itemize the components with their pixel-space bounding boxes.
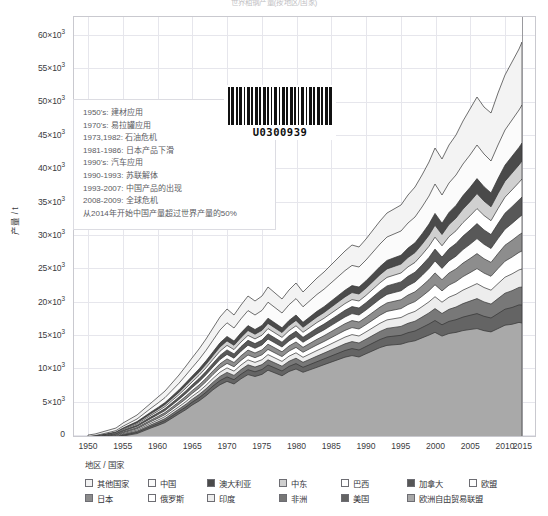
y-tick: 15×103 [38, 328, 65, 340]
legend-item-usa[interactable]: 美国 [341, 492, 407, 504]
legend-swatch-icon [279, 479, 287, 487]
legend-swatch-icon [407, 494, 415, 502]
barcode-value: U0300939 [253, 126, 308, 138]
legend-item-china[interactable]: 中国 [148, 477, 207, 489]
y-tick: 25×103 [38, 261, 65, 273]
legend-item-africa[interactable]: 非洲 [279, 492, 341, 504]
legend-item-india[interactable]: 印度 [207, 492, 279, 504]
legend-label: 俄罗斯 [160, 492, 184, 504]
y-tick: 0 [60, 429, 65, 439]
legend-label: 中东 [291, 477, 307, 489]
y-tick: 60×103 [38, 28, 65, 40]
legend-label: 印度 [219, 492, 235, 504]
legend-item-efta[interactable]: 欧洲自由贸易联盟 [407, 492, 483, 504]
legend-item-canada[interactable]: 加拿大 [407, 477, 469, 489]
legend-label: 澳大利亚 [219, 477, 251, 489]
legend-swatch-icon [207, 494, 215, 502]
y-tick: 35×103 [38, 195, 65, 207]
legend-label: 欧盟 [481, 477, 497, 489]
y-axis-ticks: 0 5×103 10×103 15×103 20×103 25×103 30×1… [0, 0, 69, 516]
x-tick: 1955 [113, 441, 132, 451]
chart-page: 世界粗钢产量(按地区/国家) 产量 / t 0 5×103 10×103 15×… [0, 0, 548, 516]
legend: 地区 / 国家 其他国家 中国 澳大利亚 中东 巴西 [73, 453, 536, 511]
legend-label: 非洲 [291, 492, 307, 504]
x-tick: 2005 [461, 441, 480, 451]
legend-swatch-icon [207, 479, 215, 487]
legend-item-brazil[interactable]: 巴西 [341, 477, 407, 489]
legend-item-middle-east[interactable]: 中东 [279, 477, 341, 489]
y-tick: 50×103 [38, 94, 65, 106]
legend-label: 巴西 [353, 477, 369, 489]
legend-item-other-countries[interactable]: 其他国家 [85, 477, 148, 489]
x-tick: 2010 [495, 441, 514, 451]
legend-swatch-icon [341, 479, 349, 487]
y-tick: 55×103 [38, 61, 65, 73]
legend-label: 中国 [160, 477, 176, 489]
legend-item-japan[interactable]: 日本 [85, 492, 148, 504]
y-tick: 30×103 [38, 228, 65, 240]
x-tick: 1990 [356, 441, 375, 451]
legend-row-2: 日本 俄罗斯 印度 非洲 美国 欧洲自由贸易联盟 [85, 490, 536, 505]
legend-title: 地区 / 国家 [85, 458, 536, 470]
legend-swatch-icon [407, 479, 415, 487]
y-tick: 20×103 [38, 295, 65, 307]
x-tick: 1985 [322, 441, 341, 451]
legend-label: 欧洲自由贸易联盟 [419, 492, 483, 504]
annotation-line: 1990's: 汽车应用 [83, 157, 266, 170]
legend-label: 美国 [353, 492, 369, 504]
barcode-watermark: U0300939 [224, 85, 336, 140]
barcode-bars-icon [228, 87, 332, 125]
legend-item-eu[interactable]: 欧盟 [469, 477, 497, 489]
legend-swatch-icon [148, 479, 156, 487]
legend-label: 日本 [97, 492, 113, 504]
x-tick: 1965 [183, 441, 202, 451]
legend-item-russia[interactable]: 俄罗斯 [148, 492, 207, 504]
page-title: 世界粗钢产量(按地区/国家) [0, 0, 548, 7]
year-2015-marker [522, 17, 523, 436]
x-tick: 1975 [252, 441, 271, 451]
x-tick: 1980 [287, 441, 306, 451]
x-tick: 1950 [78, 441, 97, 451]
legend-swatch-icon [85, 494, 93, 502]
y-tick: 40×103 [38, 161, 65, 173]
annotation-line: 2008-2009: 全球危机 [83, 195, 266, 208]
annotation-line: 从2014年开始中国产量超过世界产量的50% [83, 208, 266, 221]
legend-row-1: 其他国家 中国 澳大利亚 中东 巴西 加拿大 [85, 475, 536, 490]
x-tick: 1960 [148, 441, 167, 451]
legend-label: 其他国家 [97, 477, 129, 489]
legend-swatch-icon [279, 494, 287, 502]
x-tick: 2015 [513, 441, 532, 451]
x-tick: 1970 [217, 441, 236, 451]
legend-swatch-icon [85, 479, 93, 487]
annotation-line: 1981-1986: 日本产品下滑 [83, 145, 266, 158]
legend-swatch-icon [469, 479, 477, 487]
legend-label: 加拿大 [419, 477, 443, 489]
legend-swatch-icon [148, 494, 156, 502]
x-tick: 2000 [426, 441, 445, 451]
y-tick: 5×103 [43, 395, 65, 407]
legend-item-australia[interactable]: 澳大利亚 [207, 477, 279, 489]
annotation-line: 1993-2007: 中国产品的出现 [83, 183, 266, 196]
y-tick: 45×103 [38, 128, 65, 140]
legend-swatch-icon [341, 494, 349, 502]
y-tick: 10×103 [38, 361, 65, 373]
x-tick: 1995 [391, 441, 410, 451]
annotation-line: 1990-1993: 苏联解体 [83, 170, 266, 183]
